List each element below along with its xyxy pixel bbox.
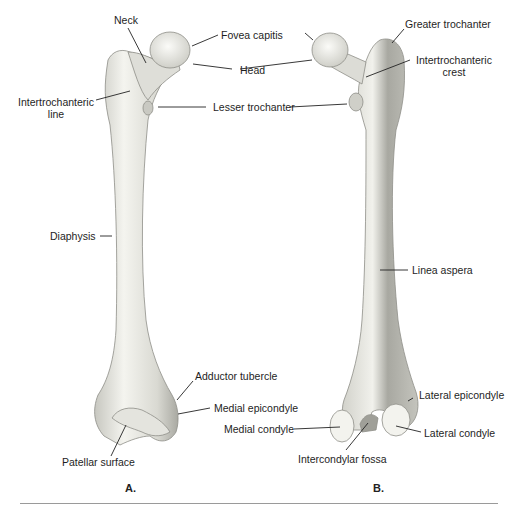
label-intertrochanteric-crest: Intertrochanteric crest <box>410 54 498 78</box>
label-greater-trochanter: Greater trochanter <box>405 18 491 30</box>
label-patellar-surface: Patellar surface <box>62 456 135 468</box>
femur-anterior <box>95 32 190 445</box>
label-intercondylar-fossa: Intercondylar fossa <box>298 453 387 465</box>
label-head: Head <box>240 64 265 76</box>
label-intertrochanteric-line: Intertrochanteric line <box>14 96 98 120</box>
label-lateral-epicondyle: Lateral epicondyle <box>419 389 504 401</box>
femur-posterior <box>312 33 418 442</box>
label-medial-condyle: Medial condyle <box>224 423 294 435</box>
panel-caption-a: A. <box>125 482 136 494</box>
label-diaphysis: Diaphysis <box>50 230 96 242</box>
label-lesser-trochanter: Lesser trochanter <box>213 101 295 113</box>
label-linea-aspera: Linea aspera <box>412 264 473 276</box>
label-neck: Neck <box>114 14 138 26</box>
label-adductor-tubercle: Adductor tubercle <box>195 370 277 382</box>
panel-caption-b: B. <box>373 482 384 494</box>
label-lateral-condyle: Lateral condyle <box>424 427 495 439</box>
bottom-rule <box>20 503 498 504</box>
label-medial-epicondyle: Medial epicondyle <box>214 402 298 414</box>
label-fovea-capitis: Fovea capitis <box>221 29 283 41</box>
